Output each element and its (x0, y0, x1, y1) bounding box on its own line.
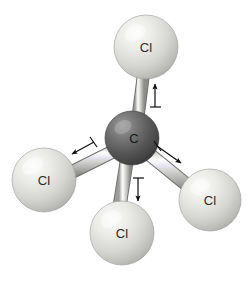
arrow-top-up (150, 84, 161, 107)
atom-cl-top: Cl (114, 15, 178, 79)
molecular-model-figure: Cl Cl Cl Cl C (0, 0, 250, 286)
arrow-left-outward (72, 137, 97, 154)
atom-carbon-center: C (105, 111, 159, 165)
molecule-diagram: Cl Cl Cl Cl C (0, 0, 250, 286)
atom-cl-right: Cl (179, 169, 241, 231)
atom-cl-left: Cl (12, 148, 76, 212)
arrow-bottom-down (133, 178, 144, 201)
atom-cl-bottom: Cl (90, 201, 154, 265)
